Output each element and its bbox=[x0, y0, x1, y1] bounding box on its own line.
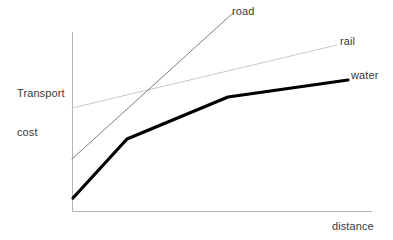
x-axis-label: distance bbox=[332, 220, 374, 233]
series-label-road: road bbox=[232, 5, 254, 18]
series-label-water: water bbox=[351, 69, 378, 82]
series-label-rail: rail bbox=[340, 35, 355, 48]
y-axis-label-line-1: Transport bbox=[17, 87, 107, 100]
y-axis-label: Transport cost bbox=[17, 61, 107, 165]
transport-cost-chart: Transport cost distance road rail water bbox=[0, 0, 393, 240]
y-axis-label-line-2: cost bbox=[17, 126, 107, 139]
